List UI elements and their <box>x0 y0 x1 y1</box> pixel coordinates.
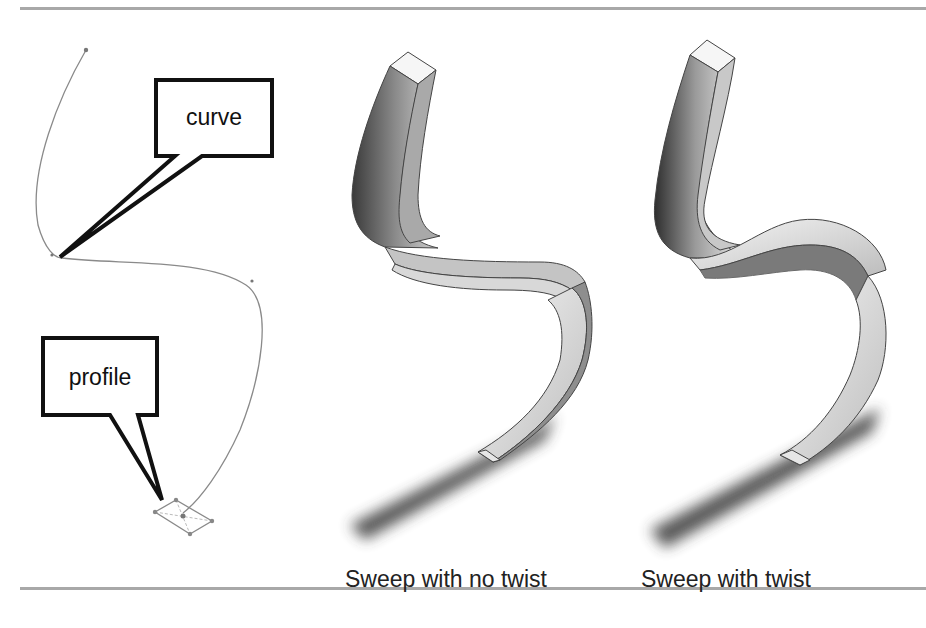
caption-no-twist: Sweep with no twist <box>345 568 547 591</box>
sweep-no-twist-model <box>350 52 592 540</box>
profile-label: profile <box>43 366 157 389</box>
caption-twist: Sweep with twist <box>641 568 811 591</box>
curve-label: curve <box>156 106 272 129</box>
profile-callout <box>43 338 162 500</box>
profile-rectangle <box>153 498 214 536</box>
sweep-twist-model <box>650 40 886 548</box>
sweep-diagram <box>0 0 926 628</box>
